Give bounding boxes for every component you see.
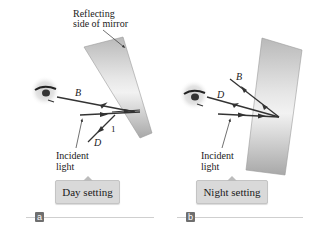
ray-label-b: B xyxy=(236,71,242,82)
panel-a-rule xyxy=(26,217,154,218)
mirror-label-line2: side of mirror xyxy=(73,18,128,29)
panel-b-drawing xyxy=(179,38,302,175)
panel-a-drawing xyxy=(30,30,152,148)
day-setting-badge: Day setting xyxy=(55,180,120,204)
panel-b-rule xyxy=(177,217,303,218)
ray-label-b: B xyxy=(75,87,81,98)
incident-light-label-line2: light xyxy=(201,161,219,172)
rearview-mirror-figure: Reflecting side of mirror B D 1 Incident… xyxy=(0,0,319,229)
mirror-b xyxy=(246,38,302,175)
night-setting-badge: Night setting xyxy=(196,180,268,204)
figure-drawing xyxy=(0,0,319,229)
mirror-a xyxy=(84,37,152,138)
ray-label-d: D xyxy=(94,137,101,148)
incident-light-label-line1: Incident xyxy=(56,150,89,161)
panel-label-b: b xyxy=(186,212,195,222)
incident-light-label-line2: light xyxy=(56,161,74,172)
panel-label-a: a xyxy=(35,212,44,222)
ray-marker-1: 1 xyxy=(111,124,116,135)
incident-light-label-line1: Incident xyxy=(201,150,234,161)
ray-label-d: D xyxy=(217,89,224,100)
